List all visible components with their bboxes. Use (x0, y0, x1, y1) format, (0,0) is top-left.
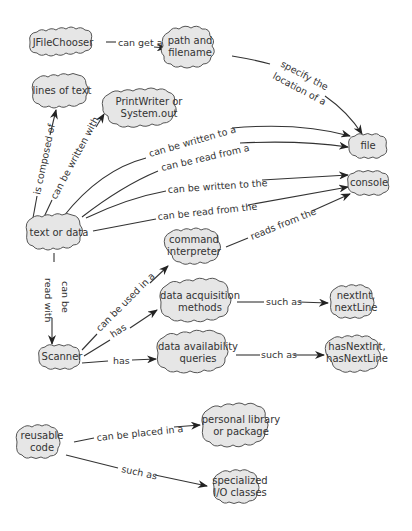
node-library: personal library or package (202, 414, 281, 438)
edge-label-read-with: read with (43, 278, 54, 323)
node-library-label-line1: personal library (202, 414, 281, 426)
node-path-label-line2: filename (168, 47, 213, 59)
node-lines: lines of text (33, 85, 92, 97)
node-reusable-label-line2: code (21, 442, 64, 454)
edge-textdata-file-written-arrow (232, 126, 350, 136)
edge-scanner-acquisition-arrow (130, 310, 157, 328)
edge-textdata-console-written-arrow (262, 175, 348, 180)
edge-label-such-as-2: such as (261, 349, 297, 360)
node-hasnextint-label-line2: hasNextLine (326, 353, 388, 365)
edge-label-such-as-1: such as (266, 296, 302, 307)
node-library-label-line2: or package (202, 426, 281, 438)
edge-path-file-arrow (325, 96, 362, 134)
edge-reusable-library (74, 438, 94, 442)
edge-label-such-as-3: such as (121, 463, 159, 481)
node-specialized-label-line2: I/O classes (212, 487, 267, 499)
node-specialized: specialized I/O classes (212, 475, 267, 499)
edge-acquisition-nextint-arrow (299, 302, 328, 303)
node-nextint: nextInt, nextLine (335, 290, 378, 314)
node-lines-label: lines of text (33, 85, 92, 96)
edge-label-can-get-a: can get a (118, 37, 163, 48)
node-file-label: file (360, 140, 375, 151)
edge-label-has-2: has (113, 355, 130, 366)
edge-label-written-to-the: can be written to the (167, 177, 267, 195)
edge-label-read-from-the: can be read from the (157, 201, 258, 222)
node-scanner-label: Scanner (42, 351, 83, 362)
edge-textdata-file-read-arrow (240, 142, 348, 147)
node-command: command interpreter (167, 234, 221, 258)
node-command-label-line1: command (167, 234, 221, 246)
node-scanner: Scanner (42, 351, 83, 363)
node-acquisition: data acquisition methods (160, 290, 240, 314)
node-acquisition-label-line1: data acquisition (160, 290, 240, 302)
edge-scanner-acquisition (84, 340, 110, 356)
node-acquisition-label-line2: methods (160, 302, 240, 314)
edge-textdata-file-read (82, 171, 158, 217)
node-file: file (360, 140, 375, 152)
node-console-label: console (350, 177, 388, 188)
edge-command-console (226, 238, 248, 247)
node-hasnextint-label-line1: hasNextInt, (326, 341, 388, 353)
node-textdata: text or data (30, 227, 89, 239)
node-jfilechooser-label: JFileChooser (33, 37, 94, 48)
node-availability: data availability queries (158, 341, 238, 365)
node-console: console (350, 177, 388, 189)
edge-reusable-specialized (66, 455, 118, 468)
node-nextint-label-line1: nextInt, (335, 290, 378, 302)
node-availability-label-line1: data availability (158, 341, 238, 353)
node-textdata-label: text or data (30, 227, 89, 238)
node-printwriter: PrintWriter or System.out (116, 96, 183, 120)
node-printwriter-label-line2: System.out (116, 108, 183, 120)
edge-textdata-lines (33, 196, 37, 218)
edge-path-file (232, 56, 270, 64)
node-availability-label-line2: queries (158, 353, 238, 365)
node-reusable: reusable code (21, 430, 64, 454)
node-jfilechooser: JFileChooser (33, 37, 94, 49)
node-hasnextint: hasNextInt, hasNextLine (326, 341, 388, 365)
edge-scanner-command (82, 334, 97, 350)
edge-command-console-arrow (312, 194, 350, 211)
edge-reusable-specialized-arrow (155, 475, 207, 486)
node-reusable-label-line1: reusable (21, 430, 64, 442)
edge-scanner-availability (82, 361, 108, 363)
edge-textdata-console-read (93, 219, 156, 231)
node-nextint-label-line2: nextLine (335, 302, 378, 314)
edge-label-reads-from-the: reads from the (249, 205, 318, 242)
node-printwriter-label-line1: PrintWriter or (116, 96, 183, 108)
edge-label-has-1: has (108, 321, 128, 339)
node-path: path and filename (168, 35, 213, 59)
node-path-label-line1: path and (168, 35, 213, 47)
node-specialized-label-line1: specialized (212, 475, 267, 487)
edge-textdata-console-read-arrow (248, 187, 348, 205)
edge-scanner-availability-arrow (132, 359, 156, 360)
edge-label-used-in-a: can be used in a (94, 270, 157, 333)
node-command-label-line2: interpreter (167, 246, 221, 258)
edge-label-can-be: can be (60, 281, 71, 313)
edge-label-placed-in-a: can be placed in a (96, 423, 184, 443)
